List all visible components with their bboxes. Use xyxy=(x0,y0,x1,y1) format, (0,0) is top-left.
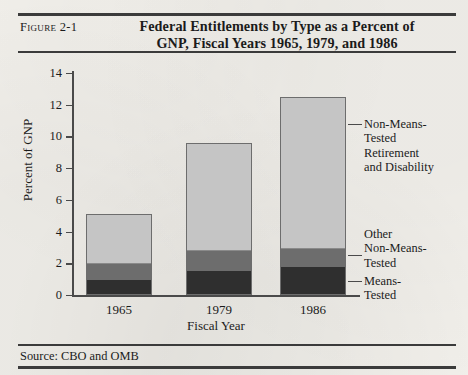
legend-leader-line-means-tested xyxy=(348,281,362,282)
source-note: Source: CBO and OMB xyxy=(20,349,139,364)
y-tick-label-4: 4 xyxy=(32,226,62,238)
y-tick-label-14: 14 xyxy=(32,67,62,79)
bar-1979-segment-other-non-means xyxy=(187,250,251,271)
y-axis-line xyxy=(72,71,74,296)
legend-leader-line-non-means-retirement xyxy=(348,124,362,125)
y-tick-mark-4 xyxy=(66,232,72,233)
x-tick-label-1965: 1965 xyxy=(86,302,152,318)
rule-bottom xyxy=(18,366,456,369)
figure-title: Federal Entitlements by Type as a Percen… xyxy=(104,18,450,51)
bar-1979-segment-means-tested xyxy=(187,271,251,294)
legend-label-non-means-retirement-line-1: Non-Means- xyxy=(364,117,464,131)
y-tick-mark-6 xyxy=(66,200,72,201)
x-axis-title: Fiscal Year xyxy=(72,318,360,334)
legend-label-other-non-means: Other Non-Means- Tested xyxy=(364,227,464,270)
y-tick-label-12: 12 xyxy=(32,99,62,111)
legend-label-other-non-means-line-2: Non-Means- xyxy=(364,241,464,255)
bar-1965-segment-non-means-retirement xyxy=(87,215,151,263)
y-axis-title: Percent of GNP xyxy=(20,80,36,240)
legend-label-means-tested-line-1: Means- xyxy=(364,274,464,288)
y-tick-label-8: 8 xyxy=(32,162,62,174)
legend-label-non-means-retirement-line-4: and Disability xyxy=(364,160,464,174)
figure-title-line-1: Federal Entitlements by Type as a Percen… xyxy=(104,18,450,35)
x-tick-label-1979: 1979 xyxy=(186,302,252,318)
y-tick-mark-8 xyxy=(66,168,72,169)
legend-leader-line-other-non-means xyxy=(348,255,362,256)
legend-label-means-tested-line-2: Tested xyxy=(364,288,464,302)
bar-1986-segment-non-means-retirement xyxy=(281,98,345,249)
rule-below-title xyxy=(18,51,456,53)
bar-1986 xyxy=(280,97,346,295)
y-tick-mark-10 xyxy=(66,136,72,137)
bar-1986-segment-means-tested xyxy=(281,267,345,294)
figure-container: Figure 2-1 Federal Entitlements by Type … xyxy=(0,0,468,375)
y-tick-label-10: 10 xyxy=(32,130,62,142)
y-tick-label-6: 6 xyxy=(32,194,62,206)
y-tick-label-2: 2 xyxy=(32,257,62,269)
y-tick-mark-14 xyxy=(66,73,72,74)
bar-1965 xyxy=(86,214,152,295)
y-tick-mark-12 xyxy=(66,105,72,106)
y-tick-mark-2 xyxy=(66,263,72,264)
bar-1965-segment-means-tested xyxy=(87,280,151,294)
legend-label-other-non-means-line-1: Other xyxy=(364,227,464,241)
figure-number-label: Figure 2-1 xyxy=(20,20,77,35)
y-tick-mark-0 xyxy=(66,295,72,296)
x-axis-line xyxy=(72,295,360,297)
bar-1965-segment-other-non-means xyxy=(87,263,151,280)
legend-label-non-means-retirement-line-2: Tested xyxy=(364,131,464,145)
legend-label-other-non-means-line-3: Tested xyxy=(364,256,464,270)
x-tick-label-1986: 1986 xyxy=(280,302,346,318)
y-tick-label-0: 0 xyxy=(32,289,62,301)
legend-label-non-means-retirement-line-3: Retirement xyxy=(364,146,464,160)
legend-label-means-tested: Means- Tested xyxy=(364,274,464,303)
bar-1979-segment-non-means-retirement xyxy=(187,144,251,250)
rule-above-source xyxy=(18,344,456,346)
legend-label-non-means-retirement: Non-Means- Tested Retirement and Disabil… xyxy=(364,117,464,174)
rule-top xyxy=(18,13,456,16)
bar-1979 xyxy=(186,143,252,295)
bar-1986-segment-other-non-means xyxy=(281,248,345,267)
figure-title-line-2: GNP, Fiscal Years 1965, 1979, and 1986 xyxy=(104,35,450,52)
